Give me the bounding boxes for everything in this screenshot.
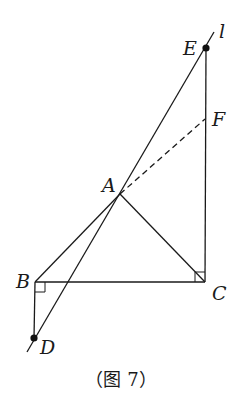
label-c: C	[212, 282, 227, 304]
segment-af-dashed	[120, 119, 205, 194]
label-l: l	[219, 20, 225, 42]
figure-caption: （图 7）	[85, 369, 156, 390]
label-b: B	[15, 270, 30, 292]
segment-bd	[34, 282, 35, 338]
line-l	[27, 32, 214, 352]
segment-ac	[120, 194, 205, 282]
segment-ab	[35, 194, 120, 282]
right-angle-mark-b	[35, 282, 45, 292]
point-d-dot	[30, 334, 37, 341]
label-f: F	[211, 108, 226, 130]
segment-ce	[205, 48, 206, 282]
label-a: A	[100, 174, 116, 196]
point-e-dot	[202, 44, 209, 51]
geometry-figure: E l F A B C D （图 7）	[0, 0, 243, 408]
label-d: D	[39, 336, 55, 358]
label-e: E	[182, 37, 197, 59]
